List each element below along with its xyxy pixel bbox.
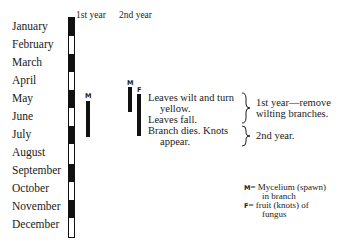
brace-second-year-icon <box>241 125 251 147</box>
month-label: September <box>12 164 61 176</box>
action-second-year: 2nd year. <box>256 130 295 141</box>
bar-segment-black <box>69 90 74 108</box>
bar-segment-black <box>69 126 74 144</box>
bar-segment-black <box>69 18 74 36</box>
header-second-year: 2nd year <box>119 10 152 20</box>
mycelium-bar-first-year <box>86 101 90 137</box>
action-first-year: 1st year—remove <box>256 97 331 108</box>
month-label: December <box>12 218 59 230</box>
bar-segment-black <box>69 164 74 182</box>
month-label: January <box>12 20 48 32</box>
month-label: August <box>12 146 45 158</box>
brace-first-year-icon <box>241 92 251 124</box>
month-label: May <box>12 92 33 104</box>
marker-m-second-year: M <box>127 80 133 87</box>
marker-m-first-year: M <box>85 93 91 100</box>
calendar-bar <box>68 17 75 238</box>
note-leaves-wilt: Leaves wilt and turn <box>148 92 234 103</box>
month-label: July <box>12 128 31 140</box>
note-yellow: yellow. <box>160 103 191 114</box>
header-first-year: 1st year <box>76 10 106 20</box>
note-branch-dies: Branch dies. Knots <box>148 125 228 136</box>
month-label: March <box>12 56 42 68</box>
action-first-year-2: wilting branches. <box>256 108 328 119</box>
month-label: November <box>12 200 61 212</box>
legend-fruit-2: fungus <box>262 210 287 220</box>
bar-segment-black <box>69 200 74 218</box>
month-label: October <box>12 182 49 194</box>
fruit-bar <box>137 94 141 136</box>
month-label: June <box>12 110 33 122</box>
note-leaves-fall: Leaves fall. <box>148 114 197 125</box>
month-label: April <box>12 74 36 86</box>
marker-f: F <box>137 87 141 94</box>
mycelium-bar-second-year <box>128 87 132 112</box>
note-knots-appear: appear. <box>160 136 190 147</box>
bar-segment-black <box>69 54 74 72</box>
month-label: February <box>12 38 54 50</box>
